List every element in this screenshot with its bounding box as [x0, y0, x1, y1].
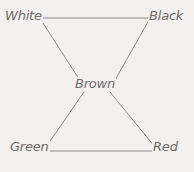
edge-white-brown	[41, 20, 79, 79]
edge-brown-green	[46, 92, 84, 147]
node-label-brown: Brown	[74, 77, 116, 91]
node-label-white: White	[4, 9, 43, 23]
node-label-green: Green	[9, 140, 50, 154]
edge-brown-red	[110, 92, 155, 147]
node-label-red: Red	[152, 140, 179, 154]
edge-black-brown	[114, 20, 149, 82]
node-label-black: Black	[148, 9, 184, 23]
color-diagram: White Black Brown Green Red	[0, 0, 194, 172]
